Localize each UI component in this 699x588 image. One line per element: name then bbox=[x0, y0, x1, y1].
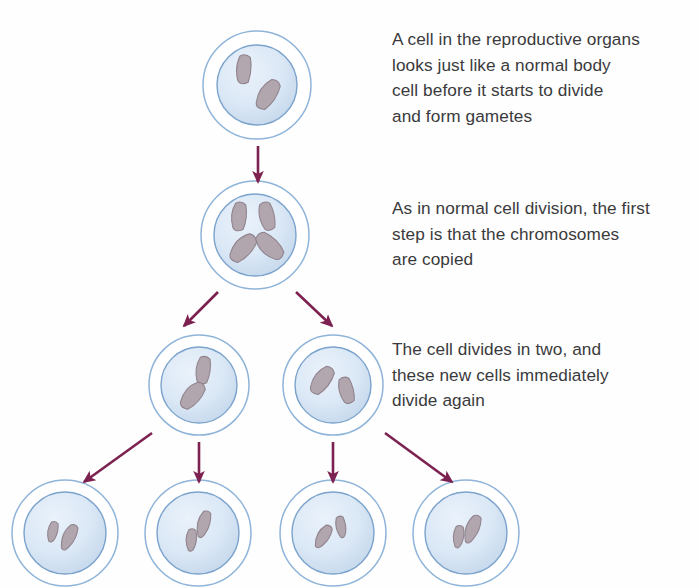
arrow-right-to-gamete-4 bbox=[385, 433, 452, 482]
cell-nucleus bbox=[214, 194, 296, 276]
cell-nucleus bbox=[292, 492, 374, 574]
cell-gamete-cells bbox=[145, 480, 251, 586]
arrow-left-to-gamete-1 bbox=[84, 433, 152, 482]
arrow-replicated-to-left bbox=[184, 292, 218, 326]
cell-nucleus bbox=[295, 347, 371, 423]
arrow-replicated-to-right bbox=[296, 292, 332, 326]
cell-daughter-cells bbox=[149, 335, 249, 435]
cell-replicated-cell bbox=[201, 181, 309, 289]
cell-gamete-cells bbox=[280, 480, 386, 586]
cell-gamete-cells bbox=[413, 480, 519, 586]
meiosis-diagram: A cell in the reproductive organs looks … bbox=[0, 0, 699, 588]
cell-parent-cell bbox=[203, 31, 311, 139]
caption-interphase: A cell in the reproductive organs looks … bbox=[392, 27, 692, 129]
cell-daughter-cells bbox=[283, 335, 383, 435]
caption-two-divisions: The cell divides in two, and these new c… bbox=[392, 337, 692, 414]
cell-nucleus bbox=[217, 45, 297, 125]
caption-chromosome-replication: As in normal cell division, the first st… bbox=[392, 196, 694, 273]
cell-gamete-cells bbox=[12, 480, 118, 586]
